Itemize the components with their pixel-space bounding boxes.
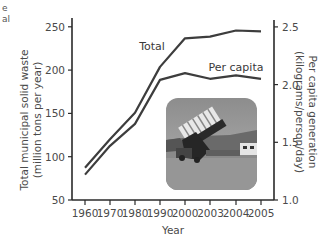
x-tick-label: 2003 xyxy=(197,207,224,219)
x-tick-label: 2005 xyxy=(248,207,275,219)
right-tick-label: 1.0 xyxy=(282,194,299,206)
left-tick-label: 50 xyxy=(52,194,65,206)
right-axis-title-line1: Per capita generation xyxy=(307,56,319,169)
x-axis-title: Year xyxy=(161,224,185,236)
x-tick-label: 1960 xyxy=(72,207,99,219)
x-tick-label: 1970 xyxy=(97,207,124,219)
x-tick-label: 1990 xyxy=(147,207,174,219)
series-label-total: Total xyxy=(138,40,165,53)
inset-photo-garbage-truck xyxy=(166,98,257,190)
x-tick-label: 2004 xyxy=(223,207,250,219)
left-axis-title-line1: Total municipal solid waste xyxy=(18,49,30,191)
series-label-per-capita: Per capita xyxy=(209,61,264,74)
right-axis-title-line2: (kilograms/person/day) xyxy=(294,51,306,173)
x-tick-label: 1980 xyxy=(122,207,149,219)
line-chart: 50 100 150 200 250 1.0 1.5 2.0 2.5 1960 … xyxy=(0,0,334,244)
left-axis-title-line2: (million tons per year) xyxy=(31,62,43,179)
right-tick-label: 2.5 xyxy=(282,21,299,33)
left-tick-label: 150 xyxy=(45,107,65,119)
left-tick-label: 200 xyxy=(45,64,65,76)
left-tick-label: 100 xyxy=(45,151,65,163)
x-tick-label: 2000 xyxy=(172,207,199,219)
left-tick-label: 250 xyxy=(45,21,65,33)
